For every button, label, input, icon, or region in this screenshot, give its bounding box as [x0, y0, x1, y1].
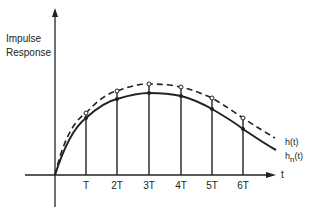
hn-samples	[84, 91, 245, 131]
tick-3T: 3T	[143, 180, 155, 191]
x-axis-arrow-icon	[266, 172, 276, 178]
x-axis-label: t	[281, 169, 284, 181]
tick-2T: 2T	[111, 180, 123, 191]
tick-T: T	[83, 180, 89, 191]
tick-4T: 4T	[175, 180, 187, 191]
y-axis-arrow-icon	[52, 8, 58, 17]
y-axis-label-line2: Response	[6, 47, 51, 59]
impulse-response-diagram	[0, 0, 311, 213]
h-legend-label: h(t)	[285, 136, 299, 148]
tick-5T: 5T	[206, 180, 218, 191]
tick-6T: 6T	[237, 180, 249, 191]
sample-lines	[86, 84, 243, 175]
y-axis-label-line1: Impulse	[6, 33, 41, 45]
hn-legend-label: hn(t)	[285, 150, 303, 166]
